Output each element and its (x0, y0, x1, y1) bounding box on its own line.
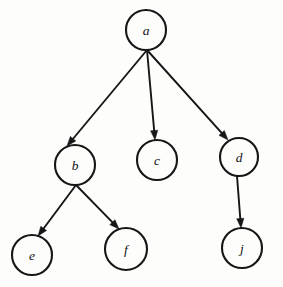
node-j[interactable]: j (222, 228, 262, 268)
diagram-canvas: abcdefj (0, 0, 283, 287)
edge-a-to-d (147, 50, 228, 140)
node-b[interactable]: b (55, 145, 95, 185)
edge-line (76, 185, 114, 224)
node-label-e: e (29, 248, 35, 263)
edge-line (147, 50, 154, 133)
edge-line (72, 50, 147, 140)
node-label-c: c (154, 153, 160, 168)
arrowhead-icon (237, 218, 244, 228)
edges-layer (38, 50, 244, 236)
edge-a-to-c (147, 50, 158, 140)
directed-tree-graph: abcdefj (0, 0, 283, 287)
edge-line (237, 176, 240, 221)
edge-b-to-f (76, 185, 119, 229)
edge-line (147, 50, 223, 134)
node-label-a: a (143, 23, 150, 38)
node-a[interactable]: a (126, 10, 166, 50)
edge-b-to-e (38, 185, 76, 236)
node-e[interactable]: e (12, 235, 52, 275)
edge-a-to-b (67, 50, 147, 146)
edge-d-to-j (237, 176, 244, 228)
node-f[interactable]: f (105, 228, 147, 270)
nodes-layer: abcdefj (12, 10, 262, 275)
node-label-b: b (72, 158, 79, 173)
node-c[interactable]: c (137, 140, 177, 180)
arrowhead-icon (151, 130, 158, 140)
node-label-d: d (236, 150, 243, 165)
node-d[interactable]: d (220, 138, 258, 176)
edge-line (42, 185, 76, 230)
